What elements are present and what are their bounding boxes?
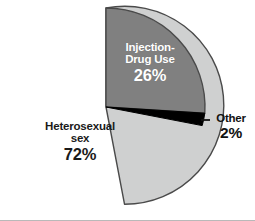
slice-value-other: 2%	[208, 125, 254, 142]
slice-value-heterosexual-sex: 72%	[22, 146, 138, 164]
slice-label-heterosexual-line2: sex	[22, 132, 138, 144]
slice-label-injection-line2: Drug Use	[112, 53, 188, 65]
slice-label-injection-line1: Injection-	[112, 41, 188, 53]
slice-label-other-name: Other	[208, 112, 254, 124]
pie-chart: Injection- Drug Use 26% Heterosexual sex…	[0, 0, 255, 221]
slice-label-heterosexual-sex: Heterosexual sex 72%	[22, 120, 138, 164]
pie-chart-graphic	[0, 0, 255, 221]
slice-label-other: Other 2%	[208, 112, 254, 142]
slice-label-heterosexual-line1: Heterosexual	[22, 120, 138, 132]
slice-label-injection-drug-use: Injection- Drug Use 26%	[112, 41, 188, 85]
slice-value-injection-drug-use: 26%	[112, 67, 188, 85]
